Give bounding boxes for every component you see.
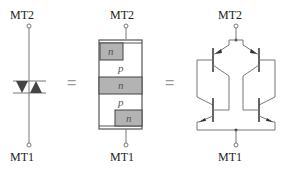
layer-n1-label: n [108, 45, 114, 57]
mt1-terminal-icon [234, 143, 238, 147]
mt1-terminal-icon [124, 143, 128, 147]
mt2-terminal-icon [124, 24, 128, 28]
mt2-terminal-icon [27, 24, 31, 28]
layer-p1-label: p [117, 62, 124, 74]
diagram-canvas: n p n p n [0, 0, 289, 171]
triac-symbol [13, 24, 46, 147]
mt1-terminal-icon [27, 143, 31, 147]
transistor-equivalent [197, 24, 275, 147]
mt2-terminal-icon [234, 24, 238, 28]
layer-n2-label: n [118, 79, 124, 91]
layer-n3-label: n [126, 112, 132, 124]
layer-structure: n p n p n [99, 24, 142, 147]
layer-p2-label: p [117, 96, 124, 108]
